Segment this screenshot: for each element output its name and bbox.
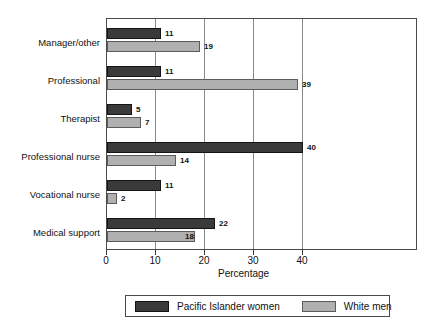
bar-vocational-nurse-pacific-islander-women xyxy=(107,180,161,191)
bar-professional-pacific-islander-women xyxy=(107,66,161,77)
bar-medical-support-pacific-islander-women xyxy=(107,218,215,229)
xaxis-ticklabel-20: 20 xyxy=(189,255,219,267)
xaxis-ticklabel-40: 40 xyxy=(287,255,317,267)
bar-value-professional-pacific-islander-women: 11 xyxy=(165,66,173,77)
legend-label-white-men: White men xyxy=(344,301,392,312)
bar-value-professional-white-men: 39 xyxy=(302,79,311,90)
bar-therapist-white-men xyxy=(107,117,141,128)
bar-manager-other-white-men xyxy=(107,41,200,52)
bar-value-vocational-nurse-pacific-islander-women: 11 xyxy=(165,180,173,191)
bar-value-therapist-white-men: 7 xyxy=(145,117,149,128)
bar-vocational-nurse-white-men xyxy=(107,193,117,204)
xaxis-title: Percentage xyxy=(218,268,269,279)
plot-area: 11 19 11 39 5 7 40 14 11 xyxy=(106,18,417,250)
bar-group-vocational-nurse: 11 2 xyxy=(107,180,416,206)
bar-manager-other-pacific-islander-women xyxy=(107,28,161,39)
legend-entry-white-men: White men xyxy=(302,301,392,312)
bar-medical-support-white-men xyxy=(107,231,195,242)
legend-entry-pacific-islander-women: Pacific Islander women xyxy=(135,301,280,312)
legend-label-pacific-islander-women: Pacific Islander women xyxy=(177,301,280,312)
bar-value-manager-other-white-men: 19 xyxy=(204,41,213,52)
bar-group-professional-nurse: 40 14 xyxy=(107,142,416,168)
legend-swatch-pacific-islander-women xyxy=(135,301,169,312)
xaxis-ticklabel-0: 0 xyxy=(91,255,121,267)
category-label-therapist: Therapist xyxy=(0,113,100,125)
bar-therapist-pacific-islander-women xyxy=(107,104,132,115)
xaxis-ticklabel-30: 30 xyxy=(238,255,268,267)
bar-value-therapist-pacific-islander-women: 5 xyxy=(136,104,140,115)
bar-value-manager-other-pacific-islander-women: 11 xyxy=(165,28,173,39)
bar-value-medical-support-pacific-islander-women: 22 xyxy=(219,218,228,229)
bar-group-therapist: 5 7 xyxy=(107,104,416,130)
category-label-medical-support: Medical support xyxy=(0,227,100,239)
bar-value-medical-support-white-men: 18 xyxy=(185,231,194,242)
bar-value-professional-nurse-pacific-islander-women: 40 xyxy=(307,142,316,153)
category-label-vocational-nurse: Vocational nurse xyxy=(0,189,100,201)
bar-professional-nurse-white-men xyxy=(107,155,176,166)
category-label-professional: Professional xyxy=(0,75,100,87)
bar-professional-nurse-pacific-islander-women xyxy=(107,142,303,153)
chart-legend: Pacific Islander women White men xyxy=(125,295,390,317)
category-label-manager-other: Manager/other xyxy=(0,37,100,49)
bar-value-professional-nurse-white-men: 14 xyxy=(180,155,189,166)
category-label-professional-nurse: Professional nurse xyxy=(0,151,100,163)
xaxis-ticklabel-10: 10 xyxy=(140,255,170,267)
legend-swatch-white-men xyxy=(302,301,336,312)
bar-group-professional: 11 39 xyxy=(107,66,416,92)
bar-value-vocational-nurse-white-men: 2 xyxy=(121,193,125,204)
bar-group-manager-other: 11 19 xyxy=(107,28,416,54)
bar-professional-white-men xyxy=(107,79,298,90)
bar-group-medical-support: 22 18 xyxy=(107,218,416,244)
bar-chart: Manager/other Professional Therapist Pro… xyxy=(0,0,428,326)
